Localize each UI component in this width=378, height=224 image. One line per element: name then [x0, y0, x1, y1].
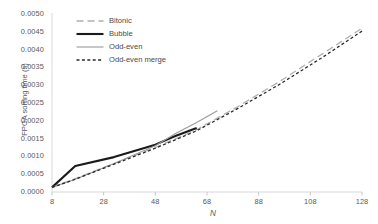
legend-label: Odd-even merge: [104, 55, 166, 64]
legend-label: Bitonic: [104, 16, 132, 25]
x-tick-label: 48: [135, 197, 175, 206]
legend-label: Bubble: [104, 29, 133, 38]
x-tick-label: 8: [32, 197, 72, 206]
chart-legend: BitonicBubbleOdd-evenOdd-even merge: [76, 14, 226, 66]
legend-line-swatch-icon: [76, 42, 104, 52]
legend-item: Odd-even: [76, 40, 226, 53]
legend-label: Odd-even: [104, 42, 142, 51]
legend-item: Bubble: [76, 27, 226, 40]
x-tick-label: 88: [239, 197, 279, 206]
y-tick-label: 0.0000: [4, 187, 44, 196]
series-line-odd-even: [52, 111, 217, 188]
y-tick-label: 0.0050: [4, 9, 44, 18]
legend-line-swatch-icon: [76, 29, 104, 39]
chart-container: 0.00000.00050.00100.00150.00200.00250.00…: [0, 0, 378, 224]
x-tick-label: 28: [84, 197, 124, 206]
x-tick-label: 108: [290, 197, 330, 206]
legend-item: Odd-even merge: [76, 53, 226, 66]
x-tick-label: 128: [342, 197, 378, 206]
legend-item: Bitonic: [76, 14, 226, 27]
x-axis-title: N: [193, 209, 233, 218]
y-axis-title: FPGA sorting time (s): [20, 30, 29, 170]
x-tick-label: 68: [187, 197, 227, 206]
y-tick-label: 0.0005: [4, 169, 44, 178]
legend-line-swatch-icon: [76, 16, 104, 26]
legend-line-swatch-icon: [76, 55, 104, 65]
